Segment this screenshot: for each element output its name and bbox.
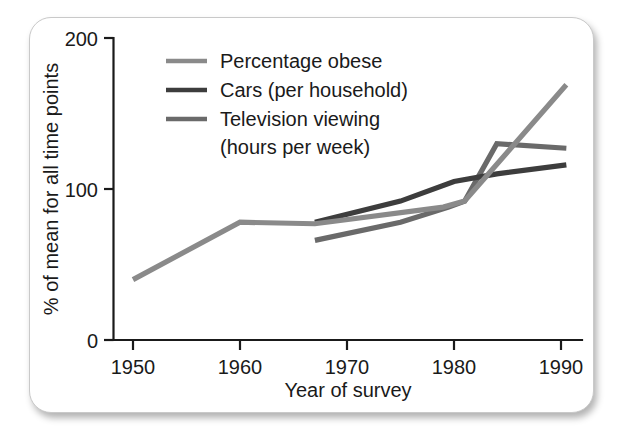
line-chart: 200 100 0 1950 1960 1970 1980 1990 Year … — [0, 0, 621, 437]
series-line-cars-per-household — [315, 165, 566, 222]
legend: Percentage obese Cars (per household) Te… — [166, 50, 408, 158]
x-tick-label-1980: 1980 — [432, 356, 477, 378]
y-tick-label-200: 200 — [65, 28, 98, 50]
legend-label-television-viewing-units: (hours per week) — [220, 136, 370, 158]
x-tick-label-1950: 1950 — [111, 356, 156, 378]
legend-label-percentage-obese: Percentage obese — [220, 50, 382, 72]
chart-plot-area: 200 100 0 1950 1960 1970 1980 1990 Year … — [0, 0, 621, 437]
x-axis-title: Year of survey — [284, 379, 411, 401]
y-tick-label-100: 100 — [65, 179, 98, 201]
x-tick-label-1970: 1970 — [325, 356, 370, 378]
y-tick-label-0: 0 — [87, 330, 98, 352]
series-line-television-viewing — [315, 144, 566, 241]
figure-root: 200 100 0 1950 1960 1970 1980 1990 Year … — [0, 0, 621, 437]
x-tick-label-1960: 1960 — [218, 356, 263, 378]
legend-label-cars-per-household: Cars (per household) — [220, 79, 408, 101]
x-tick-label-1990: 1990 — [539, 356, 584, 378]
legend-label-television-viewing: Television viewing — [220, 108, 380, 130]
y-axis-title: % of mean for all time points — [40, 63, 62, 315]
